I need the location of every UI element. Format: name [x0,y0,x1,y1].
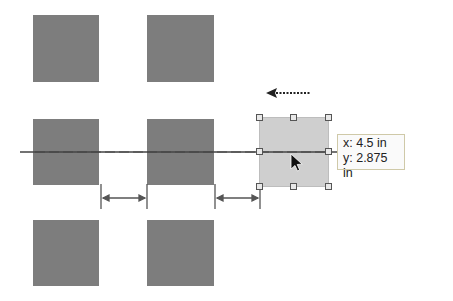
handle-middle-right[interactable] [325,148,332,155]
handle-bottom-right[interactable] [325,183,332,190]
handle-top-middle[interactable] [290,114,297,121]
handle-bottom-left[interactable] [256,183,263,190]
handle-top-right[interactable] [325,114,332,121]
cursor-icon [291,154,302,171]
tooltip-y-value: y: 2.875 in [343,151,399,181]
position-tooltip: x: 4.5 in y: 2.875 in [337,134,405,170]
spacing-indicator-1 [101,184,147,209]
drag-direction-arrow-icon [266,88,310,98]
handle-bottom-middle[interactable] [290,183,297,190]
handle-middle-left[interactable] [256,148,263,155]
handle-top-left[interactable] [256,114,263,121]
tooltip-x-value: x: 4.5 in [343,136,399,151]
spacing-indicator-2 [215,184,260,209]
